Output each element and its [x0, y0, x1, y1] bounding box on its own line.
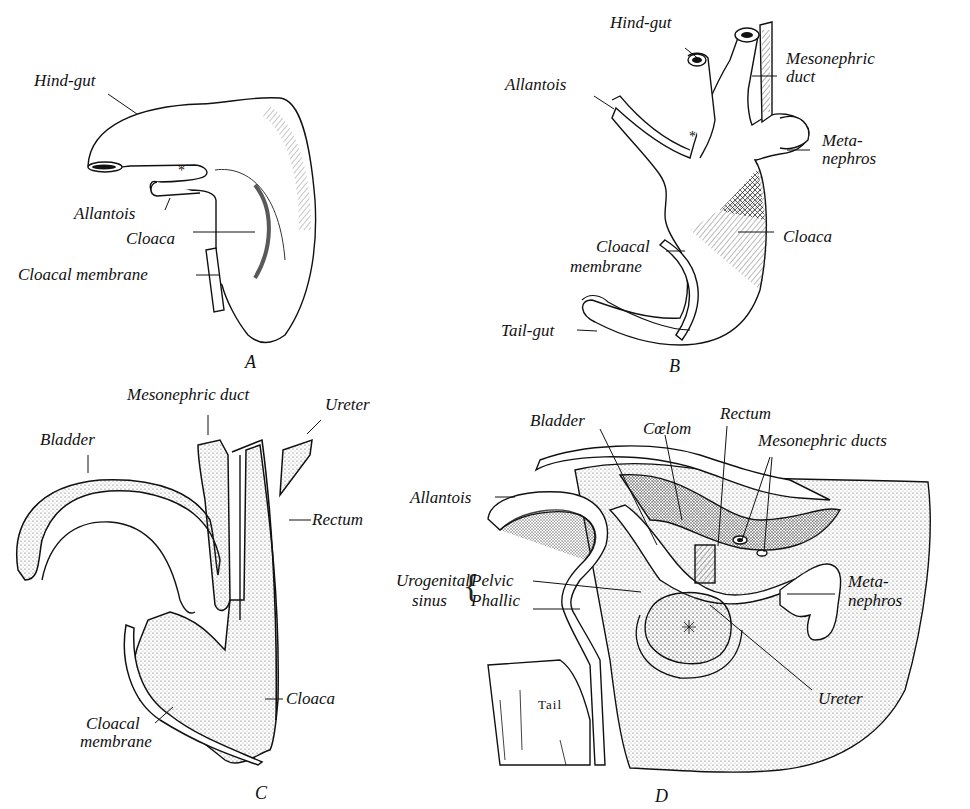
label-c-rectum: Rectum	[312, 511, 363, 529]
label-d-urogenital-line2: sinus	[412, 592, 447, 610]
label-d-tail: Tail	[538, 697, 562, 713]
label-d-rectum: Rectum	[720, 405, 771, 423]
label-a-allantois: Allantois	[74, 205, 135, 223]
label-d-coelom: Cœlom	[643, 420, 691, 438]
label-b-metanephros-line2: nephros	[822, 150, 876, 168]
label-a-cloaca: Cloaca	[126, 230, 175, 248]
label-a-cloacal-membrane: Cloacal membrane	[18, 266, 148, 284]
label-c-bladder: Bladder	[40, 431, 95, 449]
panel-c-drawing	[17, 415, 321, 765]
caption-panel-c: C	[255, 783, 267, 804]
label-a-hindgut: Hind-gut	[34, 72, 95, 90]
label-d-metanephros-line2: nephros	[848, 592, 902, 610]
panel-b-drawing	[577, 22, 810, 345]
label-d-mesonephric-ducts: Mesonephric ducts	[758, 432, 887, 450]
caption-panel-d: D	[655, 786, 668, 807]
label-d-pelvic: Pelvic	[471, 572, 513, 590]
label-c-cloacal-membrane-line1: Cloacal	[86, 715, 140, 733]
caption-panel-a: A	[245, 352, 256, 373]
label-c-mesonephric-duct: Mesonephric duct	[127, 386, 249, 404]
label-d-urogenital-line1: Urogenital	[396, 572, 470, 590]
label-a-asterisk: *	[178, 162, 185, 180]
label-d-metanephros-line1: Meta-	[848, 573, 889, 591]
label-b-cloacal-membrane-line2: membrane	[570, 258, 642, 276]
label-c-cloacal-membrane-line2: membrane	[80, 733, 152, 751]
label-d-phallic: Phallic	[471, 592, 520, 610]
label-b-tailgut: Tail-gut	[501, 322, 554, 340]
label-b-cloaca: Cloaca	[783, 228, 832, 246]
label-c-ureter: Ureter	[325, 396, 370, 414]
label-d-allantois: Allantois	[410, 489, 471, 507]
label-d-bladder: Bladder	[530, 412, 585, 430]
caption-panel-b: B	[669, 356, 680, 377]
label-b-metanephros-line1: Meta-	[822, 132, 863, 150]
label-c-cloaca: Cloaca	[286, 690, 335, 708]
label-b-allantois: Allantois	[505, 76, 566, 94]
label-d-ureter: Ureter	[818, 690, 863, 708]
label-b-cloacal-membrane-line1: Cloacal	[596, 238, 650, 256]
label-b-hindgut: Hind-gut	[610, 14, 671, 32]
label-b-asterisk: *	[689, 128, 696, 146]
label-b-mesonephric-duct-line2: duct	[786, 68, 815, 86]
label-b-mesonephric-duct-line1: Mesonephric	[786, 50, 875, 68]
illustration-canvas	[0, 0, 970, 809]
